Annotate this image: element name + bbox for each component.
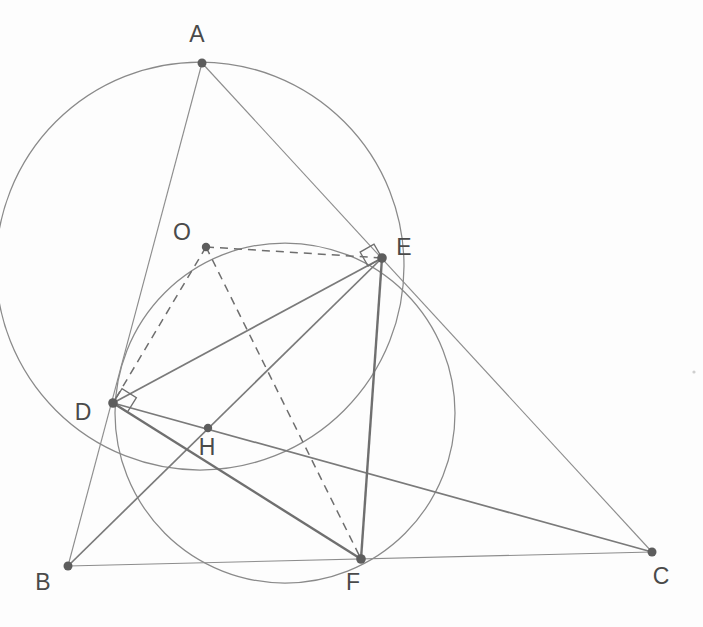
point-label-A: A bbox=[189, 21, 205, 47]
vertex-dot-F bbox=[356, 554, 366, 564]
point-label-H: H bbox=[199, 434, 216, 460]
point-label-B: B bbox=[35, 569, 50, 595]
vertex-dot-E bbox=[377, 253, 387, 263]
geometry-diagram: A B C D E F H O bbox=[0, 0, 703, 627]
vertex-dot-O bbox=[202, 243, 210, 251]
scan-speck bbox=[692, 370, 695, 373]
vertex-dot-B bbox=[64, 562, 73, 571]
point-label-E: E bbox=[396, 234, 411, 260]
point-label-C: C bbox=[653, 563, 670, 589]
point-label-F: F bbox=[346, 569, 360, 595]
diagram-background bbox=[0, 0, 703, 627]
vertex-dot-H bbox=[204, 424, 212, 432]
vertex-dot-A bbox=[198, 59, 207, 68]
point-label-D: D bbox=[75, 399, 92, 425]
point-label-O: O bbox=[173, 219, 191, 245]
vertex-dot-D bbox=[108, 398, 118, 408]
geometry-canvas: A B C D E F H O bbox=[0, 0, 703, 627]
vertex-dot-C bbox=[648, 548, 657, 557]
